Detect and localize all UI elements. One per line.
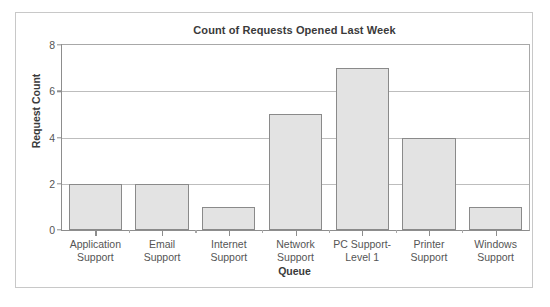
- x-tick-mark: [162, 230, 163, 236]
- x-tick-label-line: Support: [411, 251, 448, 264]
- bar: [269, 114, 322, 230]
- y-tick-label: 0: [49, 224, 55, 236]
- x-tick-boundary-mark: [129, 230, 130, 233]
- y-tick-label: 6: [49, 85, 55, 97]
- bar: [69, 184, 122, 230]
- x-tick-label-line: Email: [144, 238, 181, 251]
- x-tick-mark: [362, 230, 363, 236]
- x-tick-mark: [496, 230, 497, 236]
- x-tick-mark: [429, 230, 430, 236]
- x-tick-label: NetworkSupport: [276, 238, 315, 264]
- bar: [336, 68, 389, 230]
- chart-figure: Count of Requests Opened Last Week Reque…: [15, 12, 533, 288]
- x-tick-label: InternetSupport: [210, 238, 247, 264]
- x-tick-label-line: Printer: [411, 238, 448, 251]
- x-tick-label-line: Support: [70, 251, 121, 264]
- y-tick-mark: [57, 44, 62, 45]
- bar: [202, 207, 255, 230]
- x-tick-mark: [296, 230, 297, 236]
- y-tick-mark: [57, 183, 62, 184]
- x-tick-mark: [229, 230, 230, 236]
- x-tick-boundary-mark: [195, 230, 196, 233]
- bar: [135, 184, 188, 230]
- x-tick-label: WindowsSupport: [474, 238, 517, 264]
- x-tick-label: PC Support-Level 1: [333, 238, 391, 264]
- x-tick-label-line: Internet: [210, 238, 247, 251]
- y-tick-mark: [57, 229, 62, 230]
- y-tick-mark: [57, 137, 62, 138]
- x-tick-label-line: Windows: [474, 238, 517, 251]
- x-tick-label-line: Application: [70, 238, 121, 251]
- x-tick-label-line: Support: [474, 251, 517, 264]
- x-tick-label-line: PC Support-: [333, 238, 391, 251]
- plot-area: 02468 ApplicationSupportEmailSupportInte…: [61, 44, 530, 231]
- x-tick-label: PrinterSupport: [411, 238, 448, 264]
- x-tick-label-line: Support: [276, 251, 315, 264]
- x-tick-mark: [95, 230, 96, 236]
- y-tick-label: 8: [49, 39, 55, 51]
- x-tick-label-line: Level 1: [333, 251, 391, 264]
- chart-title: Count of Requests Opened Last Week: [61, 24, 528, 36]
- gridline: [62, 91, 529, 92]
- y-axis-title: Request Count: [30, 51, 42, 171]
- bar: [402, 138, 455, 231]
- x-axis-title: Queue: [61, 265, 528, 277]
- x-tick-label-line: Network: [276, 238, 315, 251]
- y-tick-label: 2: [49, 178, 55, 190]
- x-tick-label-line: Support: [144, 251, 181, 264]
- bar: [469, 207, 522, 230]
- y-tick-mark: [57, 91, 62, 92]
- x-tick-label-line: Support: [210, 251, 247, 264]
- x-tick-boundary-mark: [329, 230, 330, 233]
- x-tick-boundary-mark: [262, 230, 263, 233]
- x-tick-label: ApplicationSupport: [70, 238, 121, 264]
- x-tick-label: EmailSupport: [144, 238, 181, 264]
- x-tick-boundary-mark: [462, 230, 463, 233]
- y-tick-label: 4: [49, 132, 55, 144]
- x-tick-boundary-mark: [396, 230, 397, 233]
